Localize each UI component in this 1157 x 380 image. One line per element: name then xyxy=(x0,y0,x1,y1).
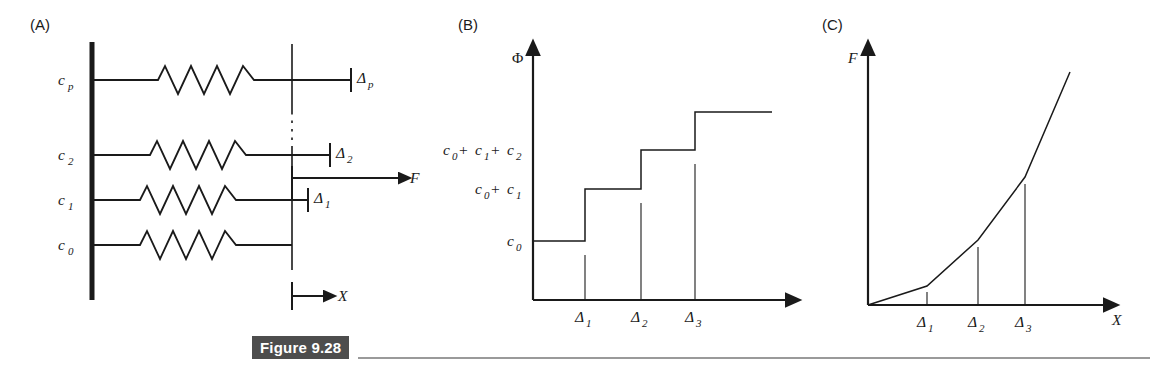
spring-row-c2: c 2 Δ 2 xyxy=(58,141,353,169)
ytick1-plus-a: + xyxy=(491,180,500,197)
gap-label-delta-p-base: Δ xyxy=(356,69,366,86)
spring-cp xyxy=(92,66,292,94)
ytick1-c-a: c xyxy=(475,180,482,197)
spring-label-cp-base: c xyxy=(58,71,65,88)
panel-b-y-axis-label: Φ xyxy=(512,49,523,66)
caption-divider-rule xyxy=(358,357,1150,359)
gap-label-delta-2-sub: 2 xyxy=(347,153,353,165)
ytick0-c: c xyxy=(507,232,514,249)
displacement-label: X xyxy=(337,287,348,304)
spring-c2 xyxy=(92,141,292,169)
ytick2-sub-a: 0 xyxy=(452,150,458,162)
ytick2-sub-c: 2 xyxy=(516,150,522,162)
gap-label-delta-1-sub: 1 xyxy=(325,198,331,210)
ytick1-sub-b: 1 xyxy=(516,189,522,201)
figure-caption-row: Figure 9.28 xyxy=(0,336,1157,366)
panel-c-xtick3-sub: 3 xyxy=(1025,322,1032,334)
ytick2-plus-a: + xyxy=(459,141,468,158)
ytick2-c-c: c xyxy=(507,141,514,158)
panel-c-xtick2-delta: Δ xyxy=(967,313,977,330)
panel-b-y-tick-c0: c 0 xyxy=(507,232,522,253)
ytick1-sub-a: 0 xyxy=(484,189,490,201)
panel-a-tag: (A) xyxy=(30,16,50,33)
panel-c-xtick1-delta: Δ xyxy=(916,313,926,330)
figure-artwork: (A) c p Δ p c 2 Δ 2 xyxy=(0,0,1157,380)
ytick2-c-a: c xyxy=(443,141,450,158)
panel-b: (B) Φ c 0 + c 1 + c 2 c 0 + c xyxy=(443,16,787,329)
spring-row-c1: c 1 Δ 1 xyxy=(58,186,331,214)
panel-c-tag: (C) xyxy=(822,16,843,33)
force-arrow-group: F xyxy=(292,166,420,200)
panel-b-xtick2-sub: 2 xyxy=(642,317,648,329)
panel-b-xtick3-delta: Δ xyxy=(684,308,694,325)
panel-c-x-tick-3: Δ 3 xyxy=(1014,313,1032,334)
spring-row-cp: c p Δ p xyxy=(58,66,374,94)
ytick0-sub: 0 xyxy=(516,241,522,253)
gap-label-delta-2-base: Δ xyxy=(335,144,345,161)
spring-label-c1-sub: 1 xyxy=(68,200,74,212)
panel-b-staircase xyxy=(533,112,772,241)
gap-label-delta-1-base: Δ xyxy=(313,189,323,206)
spring-label-c2-base: c xyxy=(58,146,65,163)
panel-c-xtick2-sub: 2 xyxy=(979,322,985,334)
panel-b-tag: (B) xyxy=(458,16,478,33)
spring-c0 xyxy=(92,231,292,259)
spring-label-c0-sub: 0 xyxy=(68,245,74,257)
panel-b-y-tick-c0c1c2: c 0 + c 1 + c 2 xyxy=(443,141,522,162)
panel-b-x-tick-3: Δ 3 xyxy=(684,308,702,329)
force-label: F xyxy=(409,169,420,186)
panel-b-xtick1-delta: Δ xyxy=(574,308,584,325)
figure-container: (A) c p Δ p c 2 Δ 2 xyxy=(0,0,1157,380)
panel-c-x-tick-2: Δ 2 xyxy=(967,313,985,334)
panel-c-force-curve xyxy=(868,72,1070,305)
ytick1-c-b: c xyxy=(507,180,514,197)
panel-c-x-tick-1: Δ 1 xyxy=(916,313,934,334)
spring-label-c2-sub: 2 xyxy=(68,155,74,167)
figure-number-badge: Figure 9.28 xyxy=(252,336,349,359)
panel-c-x-axis-label: X xyxy=(1111,311,1122,328)
spring-label-c1-base: c xyxy=(58,191,65,208)
displacement-arrow-group: X xyxy=(292,282,348,310)
panel-b-x-tick-1: Δ 1 xyxy=(574,308,592,329)
panel-b-x-tick-2: Δ 2 xyxy=(630,308,648,329)
panel-b-xtick3-sub: 3 xyxy=(695,317,702,329)
panel-c-xtick3-delta: Δ xyxy=(1014,313,1024,330)
panel-b-xtick2-delta: Δ xyxy=(630,308,640,325)
spring-label-cp-sub: p xyxy=(67,80,74,92)
panel-b-xtick1-sub: 1 xyxy=(586,317,592,329)
panel-c-y-axis-label: F xyxy=(847,49,858,66)
panel-a: (A) c p Δ p c 2 Δ 2 xyxy=(30,16,420,310)
panel-c: (C) F X Δ 1 Δ 2 Δ 3 xyxy=(822,16,1122,334)
gap-label-delta-p-sub: p xyxy=(367,78,374,90)
panel-c-xtick1-sub: 1 xyxy=(928,322,934,334)
spring-label-c0-base: c xyxy=(58,236,65,253)
ytick2-sub-b: 1 xyxy=(484,150,490,162)
panel-b-y-tick-c0c1: c 0 + c 1 xyxy=(475,180,522,201)
ytick2-plus-b: + xyxy=(491,141,500,158)
ytick2-c-b: c xyxy=(475,141,482,158)
